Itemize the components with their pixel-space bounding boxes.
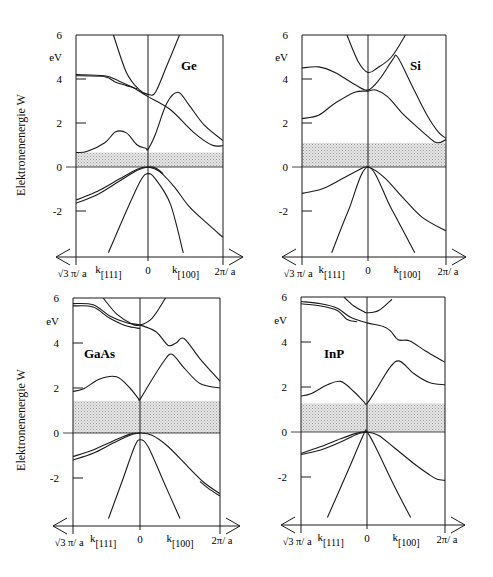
band-conduction-lowest xyxy=(302,90,446,143)
band-valence-heavy-hole xyxy=(73,433,220,494)
band-conduction-L-upper-2 xyxy=(73,306,140,329)
band-conduction-L-upper-2 xyxy=(301,304,357,322)
band-valence-heavy-hole xyxy=(76,167,223,238)
y-tick-label: 2 xyxy=(57,117,63,129)
y-tick-label: 4 xyxy=(57,73,63,85)
y-tick-label: 6 xyxy=(282,291,288,303)
band-conduction-upper-gamma xyxy=(344,297,392,313)
band-structure-figure: 6420-2eVGe√3 π/ ak[111]0k[100]2π/ a 6420… xyxy=(0,0,493,577)
x-label-L: √3 π/ a xyxy=(282,536,311,547)
x-label-k111: k[111] xyxy=(317,531,343,548)
x-label-k100: k[100] xyxy=(166,532,193,549)
band-gap-region xyxy=(73,401,220,433)
y-tick-label: 6 xyxy=(57,29,63,41)
y-tick-label: 6 xyxy=(283,29,289,41)
band-gap-region xyxy=(301,403,445,432)
band-conduction-L-upper-1 xyxy=(76,75,223,147)
panel-title: Ge xyxy=(181,58,197,73)
x-label-X: 2π/ a xyxy=(437,534,458,545)
y-tick-label: 4 xyxy=(54,337,60,349)
x-label-gamma: 0 xyxy=(364,532,370,544)
band-conduction-lowest xyxy=(76,92,223,152)
y-tick-label: -2 xyxy=(50,472,59,484)
band-gap-region xyxy=(302,143,446,167)
unit-label: eV xyxy=(46,315,59,327)
band-conduction-upper-gamma xyxy=(113,35,179,95)
y-tick-label: 0 xyxy=(54,427,60,439)
band-valence-heavy-hole xyxy=(302,167,446,231)
x-label-gamma: 0 xyxy=(137,533,143,545)
panel-si: 6420-2eVSi√3 π/ ak[111]0k[100]2π/ a xyxy=(275,29,466,280)
band-valence-light-hole xyxy=(73,433,140,460)
band-conduction-upper-2 xyxy=(302,55,446,138)
unit-label: eV xyxy=(275,51,288,63)
x-label-gamma: 0 xyxy=(145,264,151,276)
y-tick-label: 4 xyxy=(282,336,288,348)
x-label-L: √3 π/ a xyxy=(283,268,312,279)
y-tick-label: 2 xyxy=(54,382,60,394)
x-label-k100: k[100] xyxy=(392,531,419,548)
x-label-X: 2π/ a xyxy=(212,535,233,546)
x-label-k111: k[111] xyxy=(318,263,344,280)
x-label-k111: k[111] xyxy=(95,263,121,280)
band-valence-split-off xyxy=(327,430,410,518)
y-tick-label: -2 xyxy=(278,471,287,483)
panel-gaas: 6420-2eVGaAs√3 π/ ak[111]0k[100]2π/ a xyxy=(46,292,240,549)
band-conduction-L-upper-1 xyxy=(301,302,445,363)
band-conduction-L-upper-1 xyxy=(73,303,220,381)
band-conduction-upper-gamma xyxy=(103,298,165,326)
panel-title: GaAs xyxy=(84,346,115,361)
band-conduction-upper-gamma xyxy=(347,35,406,73)
unit-label: eV xyxy=(49,51,62,63)
y-tick-label: 6 xyxy=(54,292,60,304)
x-label-L: √3 π/ a xyxy=(57,268,86,279)
panel-title: InP xyxy=(324,346,344,361)
y-tick-label: 0 xyxy=(283,161,289,173)
unit-label: eV xyxy=(274,314,287,326)
panel-title: Si xyxy=(410,58,421,73)
x-label-L: √3 π/ a xyxy=(54,537,83,548)
band-gap-region xyxy=(76,152,223,167)
y-tick-label: -2 xyxy=(53,205,62,217)
x-label-k100: k[100] xyxy=(393,263,420,280)
band-valence-split-off xyxy=(109,440,181,519)
y-tick-label: 2 xyxy=(282,381,288,393)
x-label-gamma: 0 xyxy=(365,264,371,276)
y-tick-label: 4 xyxy=(283,73,289,85)
band-conduction-lowest xyxy=(301,361,445,405)
y-tick-label: 2 xyxy=(283,117,289,129)
x-label-X: 2π/ a xyxy=(215,266,236,277)
band-valence-light-hole xyxy=(76,167,163,203)
band-valence-split-off xyxy=(108,174,183,253)
band-valence-light-hole xyxy=(332,167,415,253)
band-conduction-L-upper-2 xyxy=(76,76,137,89)
band-valence-light-hole xyxy=(301,432,367,455)
x-label-k100: k[100] xyxy=(172,263,199,280)
x-label-X: 2π/ a xyxy=(438,266,459,277)
y-tick-label: -2 xyxy=(279,205,288,217)
band-valence-split-off-tail xyxy=(200,481,220,496)
panel-ge: 6420-2eVGe√3 π/ ak[111]0k[100]2π/ a xyxy=(49,29,243,280)
band-valence-heavy-hole xyxy=(301,432,445,481)
panel-inp: 6420-2eVInP√3 π/ ak[111]0k[100]2π/ a xyxy=(274,291,465,548)
x-label-k111: k[111] xyxy=(90,532,116,549)
y-tick-label: 0 xyxy=(57,161,63,173)
band-conduction-lowest xyxy=(73,354,220,400)
y-tick-label: 0 xyxy=(282,426,288,438)
